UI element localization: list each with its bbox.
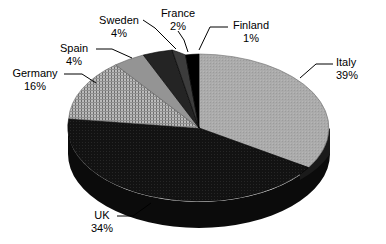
- pie-label-uk-name: UK: [87, 209, 117, 222]
- leader-line-france: [178, 31, 188, 52]
- pie-wedges: [68, 50, 329, 201]
- pie-label-germany-name: Germany: [6, 67, 64, 80]
- leader-line-spain: [96, 49, 132, 58]
- pie-label-finland: Finland 1%: [225, 19, 277, 44]
- pie-label-spain-percent: 4%: [52, 55, 96, 68]
- pie-label-finland-name: Finland: [225, 19, 277, 32]
- pie-label-france-percent: 2%: [153, 20, 203, 33]
- pie-label-italy-name: Italy: [336, 56, 358, 69]
- pie-label-france-name: France: [153, 7, 203, 20]
- pie-label-italy: Italy 39%: [336, 56, 358, 81]
- leader-line-italy: [300, 64, 333, 78]
- pie-chart: Italy 39% Finland 1% France 2% Sweden 4%…: [0, 0, 386, 244]
- pie-label-germany: Germany 16%: [6, 67, 64, 92]
- pie-label-sweden: Sweden 4%: [95, 14, 143, 39]
- pie-label-italy-percent: 39%: [336, 69, 358, 82]
- pie-label-uk: UK 34%: [87, 209, 117, 234]
- pie-label-sweden-percent: 4%: [95, 27, 143, 40]
- pie-label-france: France 2%: [153, 7, 203, 32]
- pie-label-germany-percent: 16%: [6, 80, 64, 93]
- pie-label-spain: Spain 4%: [52, 42, 96, 67]
- pie-chart-graphic: [0, 0, 386, 244]
- pie-label-finland-percent: 1%: [225, 32, 277, 45]
- leader-line-finland: [199, 27, 228, 50]
- pie-label-spain-name: Spain: [52, 42, 96, 55]
- pie-label-uk-percent: 34%: [87, 222, 117, 235]
- pie-label-sweden-name: Sweden: [95, 14, 143, 27]
